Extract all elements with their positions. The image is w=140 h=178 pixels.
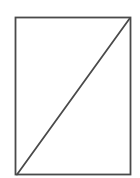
rectangle-diagonal-diagram: [0, 0, 140, 178]
diagram-canvas: [0, 0, 140, 178]
diagonal-line: [17, 18, 130, 175]
